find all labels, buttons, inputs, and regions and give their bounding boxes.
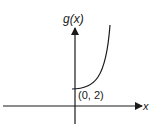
y-axis-label: g(x) <box>63 12 84 26</box>
curve-g <box>72 25 110 89</box>
point-label: (0, 2) <box>78 89 104 101</box>
graph: g(x) x (0, 2) <box>0 0 157 129</box>
x-axis-label: x <box>142 100 149 112</box>
